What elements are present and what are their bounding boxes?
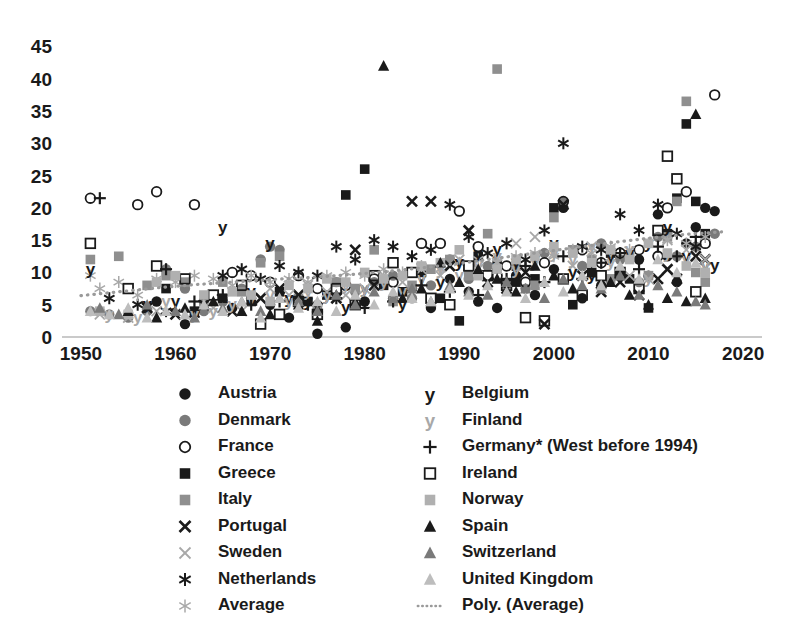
data-point bbox=[587, 258, 597, 268]
legend-marker-y-light: y bbox=[425, 410, 436, 431]
legend-label: United Kingdom bbox=[462, 569, 593, 588]
data-point bbox=[492, 64, 502, 74]
data-point bbox=[180, 319, 190, 329]
data-point bbox=[482, 261, 492, 271]
x-tick-label: 1990 bbox=[438, 343, 480, 364]
y-tick-label: 35 bbox=[31, 101, 53, 122]
legend-label: Denmark bbox=[218, 410, 291, 429]
data-point bbox=[606, 245, 616, 255]
data-point bbox=[341, 190, 351, 200]
scatter-chart: 051015202530354045 195019601970198019902… bbox=[0, 0, 792, 643]
data-point bbox=[700, 268, 710, 278]
data-point bbox=[265, 297, 275, 307]
x-tick-label: 1960 bbox=[154, 343, 196, 364]
y-tick-label: 5 bbox=[41, 295, 52, 316]
data-point bbox=[227, 287, 237, 297]
legend-item-germany-west-before-1994[interactable]: Germany* (West before 1994) bbox=[423, 436, 698, 455]
data-point bbox=[577, 261, 587, 271]
data-point bbox=[151, 296, 161, 306]
data-point bbox=[303, 284, 313, 294]
data-point bbox=[492, 303, 502, 313]
data-point: y bbox=[133, 308, 143, 327]
data-point bbox=[672, 197, 682, 207]
data-point bbox=[549, 203, 559, 213]
data-point bbox=[691, 197, 701, 207]
legend-label: Germany* (West before 1994) bbox=[462, 436, 698, 455]
chart-canvas: 051015202530354045 195019601970198019902… bbox=[0, 0, 792, 643]
legend-label: Portugal bbox=[218, 516, 287, 535]
data-point bbox=[398, 271, 408, 281]
legend-marker-filled-circle bbox=[179, 415, 190, 426]
data-point bbox=[246, 290, 256, 300]
legend-label: Poly. (Average) bbox=[462, 595, 584, 614]
y-tick-label: 15 bbox=[31, 230, 53, 251]
data-point bbox=[454, 316, 464, 326]
data-point bbox=[332, 277, 342, 287]
data-point: y bbox=[228, 295, 238, 314]
data-point bbox=[341, 277, 351, 287]
data-point bbox=[700, 277, 710, 287]
y-tick-label: 25 bbox=[31, 166, 53, 187]
data-point: y bbox=[663, 218, 673, 237]
y-tick-label: 20 bbox=[31, 198, 52, 219]
data-point bbox=[114, 251, 124, 261]
data-point bbox=[171, 271, 181, 281]
y-tick-label: 0 bbox=[41, 327, 52, 348]
data-point: y bbox=[218, 218, 228, 237]
data-point bbox=[663, 248, 673, 258]
data-point bbox=[549, 213, 559, 223]
legend-label: Greece bbox=[218, 463, 276, 482]
legend-label: Finland bbox=[462, 410, 522, 429]
legend-marker-filled-square bbox=[425, 495, 436, 506]
data-point: y bbox=[710, 256, 720, 275]
y-tick-label: 45 bbox=[31, 36, 53, 57]
legend-marker-filled-circle bbox=[179, 388, 190, 399]
y-tick-label: 10 bbox=[31, 262, 52, 283]
legend-label: Switzerland bbox=[462, 542, 556, 561]
data-point bbox=[341, 322, 351, 332]
data-point bbox=[256, 258, 266, 268]
data-point bbox=[530, 290, 540, 300]
data-point bbox=[492, 264, 502, 274]
data-point bbox=[483, 229, 493, 239]
data-point: y bbox=[360, 279, 370, 298]
data-point bbox=[653, 209, 663, 219]
x-tick-label: 2020 bbox=[722, 343, 764, 364]
data-point bbox=[152, 277, 162, 287]
legend-label: Average bbox=[218, 595, 284, 614]
data-point bbox=[682, 261, 692, 271]
legend-label: Sweden bbox=[218, 542, 282, 561]
x-tick-label: 1950 bbox=[60, 343, 102, 364]
data-point bbox=[511, 277, 521, 287]
legend-marker-filled-square bbox=[180, 495, 191, 506]
x-tick-label: 1970 bbox=[249, 343, 291, 364]
legend-label: Austria bbox=[218, 383, 277, 402]
data-point bbox=[284, 312, 294, 322]
data-point bbox=[360, 164, 370, 174]
legend-label: France bbox=[218, 436, 274, 455]
legend-marker-y-bold: y bbox=[425, 384, 436, 405]
data-point bbox=[436, 293, 446, 303]
data-point bbox=[199, 290, 209, 300]
data-point bbox=[284, 281, 294, 291]
data-point bbox=[530, 281, 540, 291]
data-point bbox=[634, 254, 644, 264]
chart-background bbox=[0, 0, 792, 643]
legend-label: Belgium bbox=[462, 383, 529, 402]
data-point bbox=[369, 245, 379, 255]
data-point bbox=[691, 222, 701, 232]
data-point bbox=[275, 251, 285, 261]
data-point bbox=[379, 274, 389, 284]
data-point bbox=[682, 97, 692, 107]
x-tick-label: 2000 bbox=[533, 343, 575, 364]
legend-label: Spain bbox=[462, 516, 508, 535]
data-point bbox=[577, 293, 587, 303]
data-point bbox=[644, 239, 654, 249]
data-point: y bbox=[86, 260, 96, 279]
data-point bbox=[237, 287, 247, 297]
data-point bbox=[691, 268, 701, 278]
legend-label: Netherlands bbox=[218, 569, 316, 588]
y-tick-label: 40 bbox=[31, 69, 52, 90]
data-point bbox=[464, 271, 474, 281]
data-point bbox=[710, 206, 720, 216]
